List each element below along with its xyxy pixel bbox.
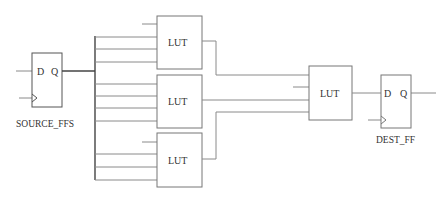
dest-ff [381, 75, 411, 128]
circuit-diagram: D Q SOURCE_FFS LUT LUT LUT LUT D Q DEST_… [0, 0, 448, 198]
lut-2-label: LUT [168, 96, 187, 107]
source-ff-pin-d: D [37, 66, 44, 77]
dest-ff-pin-d: D [384, 88, 391, 99]
source-ff-label: SOURCE_FFS [16, 119, 74, 129]
lut-output-wires [202, 41, 309, 159]
source-ff-pin-q: Q [51, 66, 59, 77]
lut-input-wires [95, 24, 157, 180]
dest-ff-pin-q: Q [400, 88, 408, 99]
circuit-svg: D Q SOURCE_FFS LUT LUT LUT LUT D Q DEST_… [0, 0, 448, 198]
source-ff [32, 53, 62, 107]
lut-3-label: LUT [168, 155, 187, 166]
dest-ff-label: DEST_FF [376, 135, 415, 145]
final-lut-label: LUT [320, 88, 339, 99]
lut-1-label: LUT [168, 37, 187, 48]
